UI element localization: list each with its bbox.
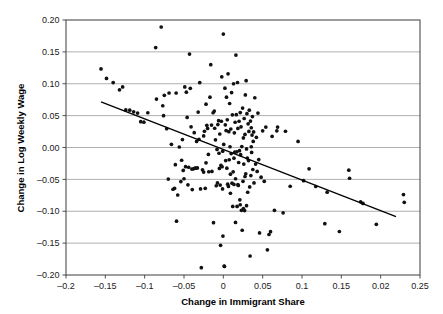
data-point (182, 177, 186, 181)
data-point (203, 129, 207, 133)
data-point (179, 180, 183, 184)
data-point (239, 125, 243, 129)
data-point (154, 46, 158, 50)
data-point (233, 131, 237, 135)
data-point (238, 149, 242, 153)
data-point (248, 254, 252, 258)
data-point (204, 161, 208, 165)
data-point (192, 131, 196, 135)
data-point (257, 158, 261, 162)
data-point (196, 166, 200, 170)
x-tick-label: –0.15 (94, 281, 117, 291)
data-point (155, 97, 159, 101)
data-point (242, 162, 246, 166)
data-point (121, 85, 125, 89)
data-point (247, 108, 251, 112)
data-point (159, 25, 163, 29)
data-point (207, 170, 211, 174)
data-point (244, 93, 248, 97)
data-point (196, 110, 200, 114)
data-point (229, 127, 233, 131)
data-point (132, 110, 136, 114)
data-point (237, 119, 241, 123)
data-point (240, 228, 244, 232)
data-point (212, 221, 216, 225)
x-tick-label: 0.05 (254, 281, 272, 291)
data-point (142, 120, 146, 124)
y-tick-label: –0.05 (37, 175, 60, 185)
data-point (190, 188, 194, 192)
data-point (255, 135, 259, 139)
data-point (276, 125, 280, 129)
data-point (259, 175, 263, 179)
data-point (225, 166, 229, 170)
data-point (181, 138, 185, 142)
data-point (208, 95, 212, 99)
data-point (252, 181, 256, 185)
data-point (225, 118, 229, 122)
data-point (170, 142, 174, 146)
data-point (247, 130, 251, 134)
data-point (174, 91, 178, 95)
data-point (249, 119, 253, 123)
data-point (284, 129, 288, 133)
data-point (243, 133, 247, 137)
data-point (166, 177, 170, 181)
x-tick-label: 0 (221, 281, 226, 291)
chart-canvas: 0.200.150.100.050.00–0.05–0.10–0.15–0.20… (0, 0, 443, 314)
data-point (183, 85, 187, 89)
data-point (255, 170, 259, 174)
data-point (220, 119, 224, 123)
data-point (269, 230, 273, 234)
data-point (233, 120, 237, 124)
y-tick-label: 0.00 (42, 143, 60, 153)
data-point (204, 102, 208, 106)
data-point (188, 52, 192, 56)
data-point (210, 170, 214, 174)
y-tick-label: 0.10 (42, 79, 60, 89)
data-point (118, 88, 122, 92)
data-point (238, 198, 242, 202)
data-point (227, 185, 231, 189)
data-point (223, 123, 227, 127)
y-axis-title: Change in Log Weekly Wage (15, 84, 26, 213)
data-point (212, 109, 216, 113)
x-tick-label: –0.05 (173, 281, 196, 291)
data-point (181, 169, 185, 173)
data-point (402, 193, 406, 197)
data-point (236, 127, 240, 131)
data-point (232, 156, 236, 160)
data-point (245, 204, 249, 208)
data-point (188, 86, 192, 90)
data-point (237, 161, 241, 165)
data-point (210, 123, 214, 127)
data-point (251, 168, 255, 172)
data-point (249, 174, 253, 178)
data-point (139, 120, 143, 124)
data-point (173, 186, 177, 190)
data-point (219, 244, 223, 248)
data-point (236, 81, 240, 85)
data-point (242, 136, 246, 140)
data-point (99, 67, 103, 71)
data-point (281, 211, 285, 215)
data-point (252, 130, 256, 134)
data-point (238, 203, 242, 207)
data-point (253, 96, 257, 100)
data-point (231, 170, 235, 174)
data-point (245, 112, 249, 116)
data-point (111, 81, 115, 85)
data-point (229, 191, 233, 195)
data-point (199, 187, 203, 191)
data-point (231, 205, 235, 209)
data-point (347, 168, 351, 172)
data-point (214, 138, 218, 142)
x-tick-label: 0.02 (372, 281, 390, 291)
data-point (242, 207, 246, 211)
data-point (176, 193, 180, 197)
data-point (162, 94, 166, 98)
data-point (244, 79, 248, 83)
data-point (230, 91, 234, 95)
data-point (234, 221, 238, 225)
x-tick-label: 0.25 (411, 281, 429, 291)
